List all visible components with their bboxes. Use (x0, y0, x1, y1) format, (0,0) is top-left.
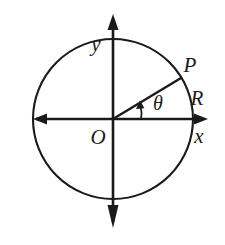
point-p-label: P (183, 53, 197, 77)
y-axis-top-arrowhead (108, 14, 119, 30)
origin-label: O (90, 125, 105, 149)
diagram-canvas: y x O P R θ (0, 0, 225, 245)
x-axis-label: x (193, 124, 204, 148)
angle-theta-label: θ (153, 92, 163, 114)
radius-segment-op (113, 78, 181, 119)
x-axis-right-arrowhead (194, 114, 208, 125)
unit-circle-diagram: y x O P R θ (0, 0, 225, 245)
y-axis-bottom-arrowhead (108, 205, 119, 228)
y-axis-label: y (89, 32, 101, 56)
x-axis-left-arrowhead (33, 114, 47, 125)
point-r-label: R (190, 86, 204, 110)
